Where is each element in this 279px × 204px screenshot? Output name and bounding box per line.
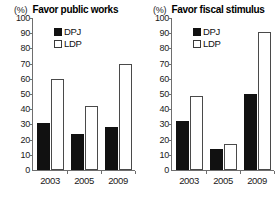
- y-axis-labels: 0102030405060708090100: [143, 18, 169, 170]
- y-axis-tick: [169, 94, 172, 95]
- x-axis-tick: [67, 171, 68, 174]
- x-axis-tick: [135, 171, 136, 174]
- bar-dpj-2005: [210, 149, 223, 170]
- y-axis-tick: [30, 94, 33, 95]
- y-tick-label: 80: [143, 44, 169, 53]
- y-axis-tick: [30, 33, 33, 34]
- plot-area: 0102030405060708090100 200320052009 DPJ …: [0, 18, 139, 204]
- y-tick-label: 100: [4, 14, 30, 23]
- legend-swatch-dpj-icon: [193, 28, 201, 36]
- page-title: Favor fiscal stimulus: [171, 4, 264, 15]
- chart-panel-fiscal-stimulus: (%) Favor fiscal stimulus 01020304050607…: [139, 0, 278, 204]
- y-tick-label: 40: [4, 105, 30, 114]
- x-axis-tick: [101, 171, 102, 174]
- y-tick-label: 60: [4, 74, 30, 83]
- y-axis-tick: [30, 64, 33, 65]
- y-tick-label: 60: [143, 74, 169, 83]
- y-axis-tick: [169, 48, 172, 49]
- y-tick-label: 90: [143, 29, 169, 38]
- x-axis-tick: [206, 171, 207, 174]
- legend-item-dpj: DPJ: [54, 26, 114, 37]
- legend-label-dpj: DPJ: [203, 27, 220, 37]
- y-axis-tick: [30, 79, 33, 80]
- page-title: Favor public works: [32, 4, 118, 15]
- bar-dpj-2003: [37, 123, 50, 170]
- y-axis-tick: [169, 109, 172, 110]
- y-tick-label: 0: [4, 166, 30, 175]
- chart-panel-public-works: (%) Favor public works 01020304050607080…: [0, 0, 139, 204]
- y-axis-tick: [30, 140, 33, 141]
- legend-item-ldp: LDP: [193, 38, 253, 49]
- legend-swatch-ldp-icon: [54, 40, 62, 48]
- y-tick-label: 20: [4, 135, 30, 144]
- y-tick-label: 10: [4, 150, 30, 159]
- y-tick-label: 30: [4, 120, 30, 129]
- y-tick-label: 80: [4, 44, 30, 53]
- y-axis-tick: [169, 64, 172, 65]
- legend-label-ldp: LDP: [203, 39, 221, 49]
- y-axis-tick: [30, 48, 33, 49]
- y-tick-label: 70: [4, 59, 30, 68]
- y-tick-label: 50: [143, 90, 169, 99]
- y-tick-label: 50: [4, 90, 30, 99]
- y-tick-label: 20: [143, 135, 169, 144]
- y-tick-label: 40: [143, 105, 169, 114]
- bar-ldp-2005: [224, 144, 237, 170]
- y-axis-tick: [169, 33, 172, 34]
- legend-swatch-ldp-icon: [193, 40, 201, 48]
- legend-item-dpj: DPJ: [193, 26, 253, 37]
- bar-ldp-2009: [258, 32, 271, 170]
- y-tick-label: 100: [143, 14, 169, 23]
- x-axis-line: [171, 170, 274, 171]
- y-axis-tick: [169, 140, 172, 141]
- bar-dpj-2005: [71, 134, 84, 170]
- x-tick-label: 2009: [108, 175, 128, 186]
- legend-item-ldp: LDP: [54, 38, 114, 49]
- legend-label-ldp: LDP: [64, 39, 82, 49]
- y-axis-tick: [30, 18, 33, 19]
- y-tick-label: 90: [4, 29, 30, 38]
- y-axis-tick: [30, 109, 33, 110]
- x-tick-label: 2009: [247, 175, 267, 186]
- bar-ldp-2005: [85, 106, 98, 170]
- y-tick-label: 0: [143, 166, 169, 175]
- bar-chart-figure: (%) Favor public works 01020304050607080…: [0, 0, 279, 204]
- y-axis-tick: [169, 155, 172, 156]
- legend: DPJ LDP: [193, 26, 253, 50]
- y-tick-label: 30: [143, 120, 169, 129]
- y-axis-tick: [169, 79, 172, 80]
- legend: DPJ LDP: [54, 26, 114, 50]
- plot-area: 0102030405060708090100 200320052009 DPJ …: [139, 18, 278, 204]
- x-axis-tick: [240, 171, 241, 174]
- y-tick-label: 10: [143, 150, 169, 159]
- legend-swatch-dpj-icon: [54, 28, 62, 36]
- bar-dpj-2009: [105, 127, 118, 170]
- x-tick-label: 2005: [213, 175, 233, 186]
- x-axis-line: [32, 170, 135, 171]
- y-axis-tick: [30, 155, 33, 156]
- y-axis-labels: 0102030405060708090100: [4, 18, 30, 170]
- bar-ldp-2003: [190, 96, 203, 170]
- y-axis-tick: [169, 124, 172, 125]
- bar-ldp-2003: [51, 79, 64, 170]
- x-axis-labels: 200320052009: [33, 175, 135, 189]
- x-tick-label: 2005: [74, 175, 94, 186]
- x-axis-tick: [274, 171, 275, 174]
- x-axis-labels: 200320052009: [172, 175, 274, 189]
- bar-dpj-2003: [176, 121, 189, 170]
- x-tick-label: 2003: [179, 175, 199, 186]
- x-tick-label: 2003: [40, 175, 60, 186]
- bar-dpj-2009: [244, 94, 257, 170]
- y-axis-tick: [169, 18, 172, 19]
- y-tick-label: 70: [143, 59, 169, 68]
- bar-ldp-2009: [119, 64, 132, 170]
- legend-label-dpj: DPJ: [64, 27, 81, 37]
- y-axis-tick: [30, 124, 33, 125]
